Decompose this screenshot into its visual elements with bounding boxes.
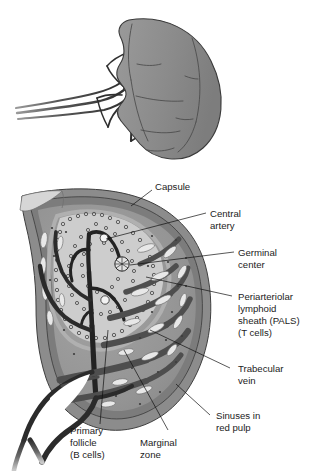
germinal-center [115,257,129,271]
central-artery-lumen-lower [101,296,109,304]
label-capsule: Capsule [155,181,190,192]
spleen-figure: Capsule Central artery Germinal center P… [0,0,322,471]
central-artery-lumen-upper [100,234,108,242]
